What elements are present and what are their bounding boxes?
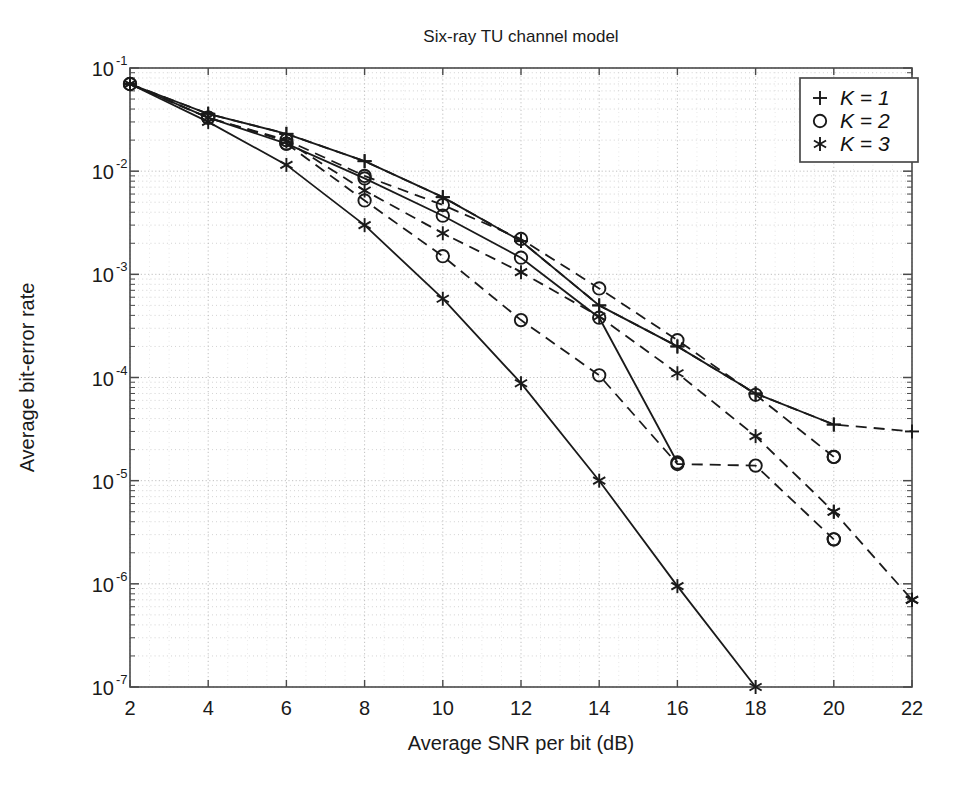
legend-label: K = 3 [840, 132, 890, 155]
x-tick-label: 4 [203, 697, 214, 719]
series-line [130, 84, 677, 463]
y-tick-label: 10 [92, 264, 114, 286]
y-tick-exponent: -3 [116, 259, 128, 274]
x-tick-label: 20 [823, 697, 845, 719]
x-tick-label: 16 [666, 697, 688, 719]
x-tick-label: 22 [901, 697, 923, 719]
y-tick-label: 10 [92, 471, 114, 493]
y-tick-label: 10 [92, 677, 114, 699]
x-tick-label: 12 [510, 697, 532, 719]
x-tick-label: 6 [281, 697, 292, 719]
y-tick-exponent: -5 [116, 466, 128, 481]
series-line [130, 84, 834, 425]
axis-text-group: Six-ray TU channel model2468101214161820… [16, 27, 923, 754]
chart-title: Six-ray TU channel model [423, 27, 618, 46]
chart-figure: Six-ray TU channel model2468101214161820… [0, 0, 968, 788]
x-axis-label: Average SNR per bit (dB) [408, 732, 634, 754]
plot-canvas: Six-ray TU channel model2468101214161820… [0, 0, 968, 788]
y-tick-exponent: -6 [116, 569, 128, 584]
x-tick-label: 10 [432, 697, 454, 719]
data-series [124, 77, 762, 694]
y-tick-label: 10 [92, 368, 114, 390]
legend-label: K = 2 [840, 109, 890, 132]
y-tick-exponent: -7 [116, 672, 128, 687]
x-tick-label: 18 [744, 697, 766, 719]
y-tick-exponent: -2 [116, 156, 128, 171]
y-tick-exponent: -1 [116, 53, 128, 68]
y-axis-label: Average bit-error rate [16, 283, 38, 473]
circle-marker [437, 250, 449, 262]
x-tick-label: 8 [359, 697, 370, 719]
y-tick-label: 10 [92, 58, 114, 80]
y-tick-label: 10 [92, 574, 114, 596]
y-tick-label: 10 [92, 161, 114, 183]
legend[interactable]: K = 1K = 2K = 3 [800, 78, 918, 162]
x-tick-label: 14 [588, 697, 610, 719]
x-tick-label: 2 [124, 697, 135, 719]
legend-label: K = 1 [840, 86, 890, 109]
data-series-group [123, 77, 919, 694]
y-tick-exponent: -4 [116, 363, 128, 378]
